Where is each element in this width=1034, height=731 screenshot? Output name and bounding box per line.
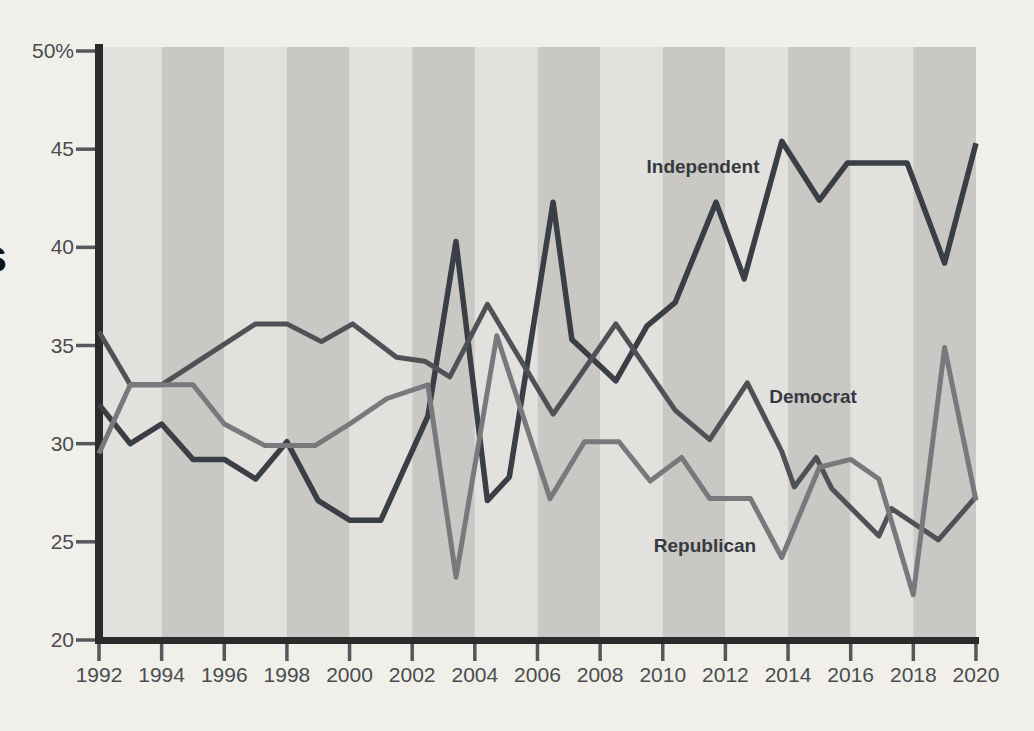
band-2016 bbox=[851, 47, 914, 637]
x-tick-label: 2020 bbox=[953, 663, 1000, 686]
x-tick-label: 1996 bbox=[201, 663, 248, 686]
x-tick bbox=[536, 644, 540, 661]
series-label-independent: Independent bbox=[647, 156, 761, 177]
x-tick bbox=[348, 644, 352, 661]
y-tick bbox=[76, 442, 95, 446]
page-edge-letter-fragment: s bbox=[0, 232, 7, 279]
y-tick-label: 40 bbox=[51, 235, 74, 258]
x-tick bbox=[160, 644, 164, 661]
x-tick bbox=[598, 644, 602, 661]
x-tick bbox=[849, 644, 853, 661]
y-tick bbox=[76, 638, 95, 642]
x-tick-label: 1994 bbox=[138, 663, 185, 686]
x-tick-label: 1992 bbox=[76, 663, 123, 686]
y-tick-label: 35 bbox=[51, 334, 74, 357]
x-tick bbox=[223, 644, 227, 661]
x-axis bbox=[95, 637, 979, 644]
party-identification-line-chart: 20253035404550%1992199419961998200020022… bbox=[0, 0, 1034, 731]
textbook-page: s 20253035404550%19921994199619982000200… bbox=[0, 0, 1034, 731]
band-2000 bbox=[350, 47, 413, 637]
y-tick bbox=[76, 540, 95, 544]
band-2014 bbox=[788, 47, 851, 637]
x-tick bbox=[97, 644, 101, 661]
x-tick-label: 2008 bbox=[577, 663, 624, 686]
x-tick bbox=[285, 644, 289, 661]
y-tick-label: 45 bbox=[51, 137, 74, 160]
y-tick bbox=[76, 246, 95, 250]
x-tick-label: 2010 bbox=[639, 663, 686, 686]
x-tick-label: 2014 bbox=[765, 663, 812, 686]
x-tick-label: 2016 bbox=[827, 663, 874, 686]
x-tick-label: 2018 bbox=[890, 663, 937, 686]
y-tick-label: 50% bbox=[32, 39, 74, 62]
series-label-republican: Republican bbox=[654, 535, 756, 556]
y-tick bbox=[76, 147, 95, 151]
y-tick-label: 25 bbox=[51, 530, 74, 553]
band-2006 bbox=[537, 47, 600, 637]
x-tick bbox=[410, 644, 414, 661]
y-tick-label: 20 bbox=[51, 628, 74, 651]
x-tick-label: 2004 bbox=[451, 663, 498, 686]
y-tick bbox=[76, 344, 95, 348]
x-tick bbox=[786, 644, 790, 661]
x-tick-label: 2012 bbox=[702, 663, 749, 686]
x-tick bbox=[912, 644, 916, 661]
band-1992 bbox=[99, 47, 162, 637]
band-1996 bbox=[224, 47, 287, 637]
x-tick-label: 2000 bbox=[326, 663, 373, 686]
x-tick bbox=[661, 644, 665, 661]
x-tick bbox=[974, 644, 978, 661]
band-1994 bbox=[162, 47, 225, 637]
x-tick bbox=[473, 644, 477, 661]
x-tick-label: 2006 bbox=[514, 663, 561, 686]
x-tick-label: 2002 bbox=[389, 663, 436, 686]
series-label-democrat: Democrat bbox=[769, 386, 857, 407]
band-2018 bbox=[913, 47, 976, 637]
x-tick-label: 1998 bbox=[264, 663, 311, 686]
x-tick bbox=[724, 644, 728, 661]
y-tick bbox=[76, 49, 95, 53]
y-tick-label: 30 bbox=[51, 432, 74, 455]
y-axis bbox=[95, 44, 103, 644]
